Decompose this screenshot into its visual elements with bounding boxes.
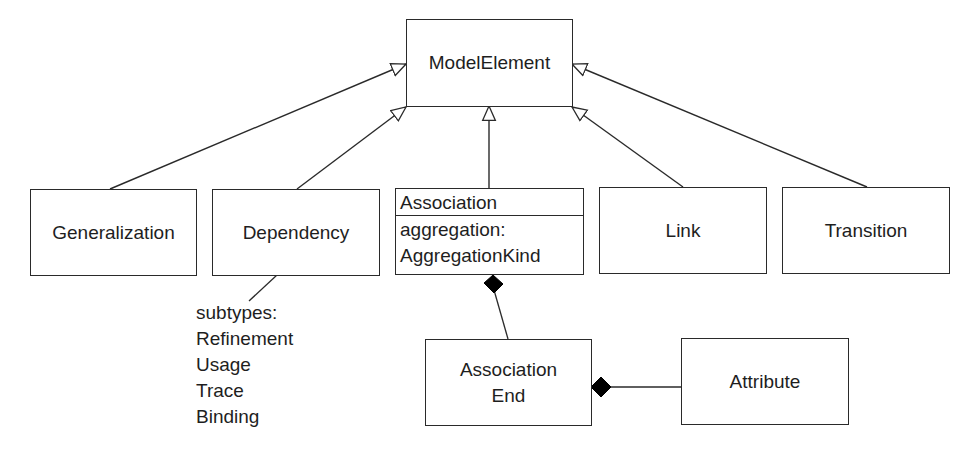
- class-link[interactable]: Link: [599, 187, 767, 274]
- note-subtype: Refinement: [196, 326, 293, 352]
- attribute-line: aggregation:: [400, 217, 579, 243]
- class-transition[interactable]: Transition: [782, 187, 950, 274]
- note-subtype: Trace: [196, 378, 293, 404]
- note-subtype: Binding: [196, 404, 293, 430]
- class-name: Attribute: [730, 369, 801, 395]
- class-name: Transition: [825, 218, 908, 244]
- class-generalization[interactable]: Generalization: [30, 189, 197, 276]
- class-name: Link: [666, 218, 701, 244]
- class-association-end[interactable]: Association End: [425, 339, 592, 426]
- class-association[interactable]: Association aggregation: AggregationKind: [395, 188, 584, 275]
- composition-diamond-association: [484, 275, 503, 293]
- class-model-element[interactable]: ModelElement: [406, 19, 573, 107]
- generalization-arrow-transition: [572, 64, 867, 187]
- dependency-subtypes-note: subtypes: Refinement Usage Trace Binding: [196, 300, 293, 430]
- generalization-arrow-dependency: [297, 107, 406, 189]
- class-name: Association: [396, 189, 583, 216]
- attribute-compartment: aggregation: AggregationKind: [396, 216, 583, 269]
- composition-diamond-association-end: [591, 377, 611, 397]
- attribute-type: AggregationKind: [400, 243, 579, 269]
- composition-line-association-end: [494, 290, 508, 339]
- generalization-arrow-link: [572, 107, 683, 187]
- note-heading: subtypes:: [196, 300, 293, 326]
- class-name: Dependency: [243, 220, 350, 246]
- note-subtype: Usage: [196, 352, 293, 378]
- class-name-line: Association: [460, 357, 557, 383]
- note-anchor-line: [249, 275, 277, 301]
- class-attribute[interactable]: Attribute: [681, 338, 849, 425]
- class-dependency[interactable]: Dependency: [212, 189, 380, 276]
- class-name-line: End: [492, 383, 526, 409]
- generalization-arrow-generalization: [110, 64, 406, 189]
- class-name: ModelElement: [429, 50, 550, 76]
- class-name: Generalization: [52, 220, 175, 246]
